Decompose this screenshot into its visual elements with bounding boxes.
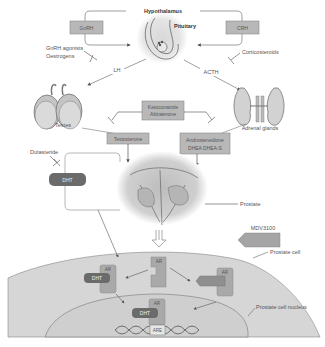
acth-label: ACTH [204, 69, 219, 75]
prostate-gland [116, 151, 208, 225]
mdv3100-bound [196, 276, 225, 286]
gnrh-agonists-label: GnRH agonists [46, 45, 84, 51]
lh-label: LH [113, 67, 120, 73]
crh-inhibition-bar [228, 53, 240, 64]
adrenal-right [267, 88, 284, 125]
testis-left [35, 101, 57, 129]
dht-nuclear-label: DHT [140, 310, 150, 316]
adrenal-left [234, 88, 251, 125]
ketoconazole-label: Ketoconazole [148, 104, 179, 110]
gnrh-loop: GnRH GnRH agonists Oestrogens [46, 11, 130, 62]
vena-cava [261, 96, 264, 122]
pituitary-dot [161, 41, 163, 43]
ar-free-label: AR [156, 259, 163, 264]
oestrogens-label: Oestrogens [46, 53, 75, 59]
pituitary-glow [136, 12, 188, 64]
pituitary-dot [159, 44, 161, 46]
gnrh-inhibition-bar [84, 51, 97, 62]
hypothalamus-label: Hypothalamus [144, 8, 182, 14]
testosterone-label: Testosterone [114, 136, 143, 142]
crh-loop: CRH Corticosteroids [198, 11, 279, 64]
hypothalamus-pituitary: Hypothalamus Pituitary [136, 8, 197, 64]
androstenedione-label: Androstenedione [186, 137, 224, 143]
adrenal-glands-illustration: Adrenal glands [234, 88, 284, 131]
dutasteride-inhibition-bar [50, 156, 60, 166]
are-label: ARE [153, 328, 162, 333]
spermatic-cord [51, 84, 66, 95]
crh-label: CRH [237, 25, 248, 31]
testes-label: Testes [55, 122, 71, 128]
mdv3100-label: MDV3100 [251, 225, 275, 231]
dht-outside-label: DHT [62, 177, 72, 183]
prostate-illustration: Prostate [116, 151, 260, 225]
abiraterone-label: Abiraterone [150, 111, 176, 117]
dht-into-cell-arrow [98, 210, 118, 257]
dht-bound-label: DHT [92, 275, 102, 281]
aorta [256, 96, 259, 122]
inhibition-testosterone [108, 112, 142, 124]
prostate-cell-label: Prostate cell [270, 249, 300, 255]
prostate-cell-nucleus-label: Prostate cell nucleus [256, 304, 307, 310]
adrenal-glands-label: Adrenal glands [242, 125, 279, 131]
prostate-label: Prostate [240, 201, 260, 207]
ar-blocked-label: AR [222, 270, 229, 275]
pituitary-label: Pituitary [174, 23, 197, 29]
ar-bound-label: AR [105, 267, 112, 272]
ar-nuclear-label: AR [154, 301, 161, 306]
dhea-label: DHEA DHEA-S [188, 145, 223, 151]
gnrh-label: GnRH [80, 25, 94, 31]
testes-illustration: Testes [34, 84, 82, 129]
dutasteride-label: Dutasteride [30, 149, 58, 155]
corticosteroids-label: Corticosteroids [242, 49, 279, 55]
prostate-cell-leader-line [253, 252, 268, 258]
androgen-pathway-diagram: Hypothalamus Pituitary GnRH GnRH agonist… [0, 0, 325, 347]
mdv3100-shape [238, 233, 280, 247]
inhibition-adrenal [184, 112, 215, 123]
